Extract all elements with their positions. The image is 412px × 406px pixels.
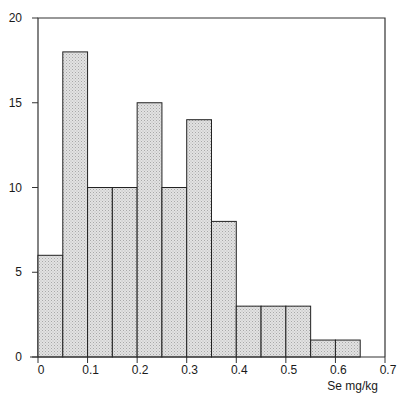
- histogram-bar: [261, 306, 286, 357]
- y-tick-label: 10: [9, 181, 23, 195]
- y-tick-label: 0: [15, 350, 22, 364]
- y-tick-label: 20: [9, 11, 23, 25]
- histogram-bar: [88, 188, 113, 358]
- histogram-bar: [311, 340, 336, 357]
- histogram-bar: [38, 255, 63, 357]
- x-tick-label: 0.5: [281, 363, 298, 377]
- x-tick-label: 0.3: [181, 363, 198, 377]
- histogram-bars: [38, 52, 360, 357]
- y-tick-label: 5: [15, 265, 22, 279]
- histogram-bar: [212, 221, 237, 357]
- histogram-bar: [286, 306, 311, 357]
- y-tick-label: 15: [9, 96, 23, 110]
- histogram-bar: [187, 120, 212, 357]
- x-tick-label: 0.7: [380, 363, 397, 377]
- histogram-bar: [63, 52, 88, 357]
- histogram-bar: [335, 340, 360, 357]
- x-tick-label: 0.2: [132, 363, 149, 377]
- histogram-chart: 00.10.20.30.40.50.60.7 05101520 Se mg/kg: [0, 0, 412, 406]
- x-axis-title: Se mg/kg: [327, 379, 378, 393]
- x-tick-label: 0: [38, 363, 45, 377]
- x-tick-label: 0.6: [330, 363, 347, 377]
- y-axis: 05101520: [9, 11, 38, 364]
- histogram-bar: [236, 306, 261, 357]
- x-tick-label: 0.4: [231, 363, 248, 377]
- histogram-bar: [112, 188, 137, 358]
- x-tick-label: 0.1: [82, 363, 99, 377]
- histogram-bar: [137, 103, 162, 357]
- x-axis: 00.10.20.30.40.50.60.7: [30, 357, 397, 377]
- histogram-bar: [162, 188, 187, 358]
